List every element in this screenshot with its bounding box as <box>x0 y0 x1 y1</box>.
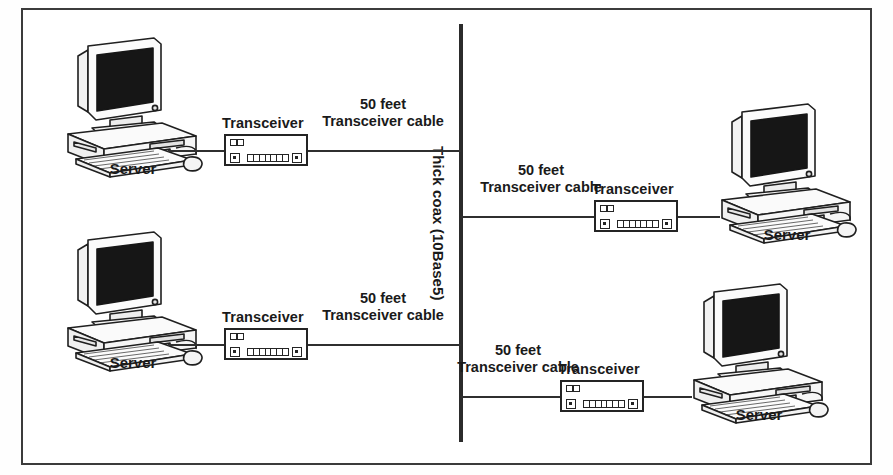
transceiver-label: Transceiver <box>558 361 640 377</box>
transceiver-port-right-icon <box>628 399 638 409</box>
network-diagram-figure: Networking Thick coax (10Base5) <box>0 0 893 475</box>
transceiver-body <box>594 200 678 232</box>
transceiver-port-right-icon <box>292 153 302 163</box>
server-label: Server <box>58 354 208 371</box>
transceiver-cable-bottom-left <box>308 344 461 346</box>
computer-icon <box>58 222 208 372</box>
transceiver-pins-icon <box>617 220 659 228</box>
transceiver-indicator-icon <box>230 333 244 340</box>
transceiver-port-left-icon <box>600 219 610 229</box>
transceiver-port-right-icon <box>662 219 672 229</box>
cable-length: 50 feet <box>308 96 458 113</box>
computer-icon <box>58 28 208 178</box>
transceiver-cable-top-right <box>461 216 594 218</box>
transceiver-body <box>224 328 308 360</box>
cable-length: 50 feet <box>308 290 458 307</box>
transceiver-top-left[interactable]: Transceiver <box>224 134 308 166</box>
transceiver-port-left-icon <box>230 347 240 357</box>
transceiver-label: Transceiver <box>222 115 304 131</box>
server-top-left[interactable]: Server <box>58 28 208 178</box>
cable-type: Transceiver cable <box>308 113 458 130</box>
cable-host-to-transceiver-top-left <box>168 150 226 152</box>
transceiver-port-left-icon <box>230 153 240 163</box>
page-margin-text: Networking <box>0 188 12 473</box>
server-label: Server <box>684 406 834 423</box>
server-top-right[interactable]: Server <box>712 94 862 244</box>
transceiver-body <box>560 380 644 412</box>
transceiver-pins-icon <box>247 154 289 162</box>
transceiver-body <box>224 134 308 166</box>
transceiver-bottom-left[interactable]: Transceiver <box>224 328 308 360</box>
server-label: Server <box>712 226 862 243</box>
computer-icon <box>684 274 834 424</box>
cable-length: 50 feet <box>466 162 616 179</box>
transceiver-pins-icon <box>583 400 625 408</box>
transceiver-label: Transceiver <box>222 309 304 325</box>
cable-label-bottom-left: 50 feet Transceiver cable <box>308 290 458 324</box>
thick-coax-backbone-line <box>459 24 463 442</box>
transceiver-bottom-right[interactable]: Transceiver <box>560 380 644 412</box>
cable-host-to-transceiver-bottom-left <box>168 344 226 346</box>
cable-label-top-left: 50 feet Transceiver cable <box>308 96 458 130</box>
transceiver-indicator-icon <box>566 385 580 392</box>
transceiver-pins-icon <box>247 348 289 356</box>
computer-icon <box>712 94 862 244</box>
transceiver-indicator-icon <box>600 205 614 212</box>
transceiver-cable-bottom-right <box>461 396 560 398</box>
transceiver-top-right[interactable]: Transceiver <box>594 200 678 232</box>
server-bottom-right[interactable]: Server <box>684 274 834 424</box>
transceiver-port-left-icon <box>566 399 576 409</box>
transceiver-port-right-icon <box>292 347 302 357</box>
cable-type: Transceiver cable <box>308 307 458 324</box>
server-bottom-left[interactable]: Server <box>58 222 208 372</box>
cable-length: 50 feet <box>443 342 593 359</box>
transceiver-indicator-icon <box>230 139 244 146</box>
server-label: Server <box>58 160 208 177</box>
transceiver-cable-top-left <box>308 150 461 152</box>
transceiver-label: Transceiver <box>592 181 674 197</box>
